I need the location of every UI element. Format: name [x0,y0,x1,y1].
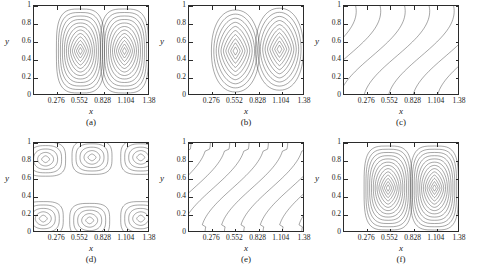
axis-tick-mark [456,42,459,43]
y-axis-label: y [156,173,168,183]
axis-tick-mark [146,24,149,25]
y-tick-label: 0.2 [1,210,31,218]
axis-tick-mark [189,197,193,198]
x-axis-ticks: 0.2760.5520.8281.1041.38 [33,96,149,106]
y-axis-label: y [311,173,323,183]
x-tick-label: 0.552 [381,233,398,242]
axis-tick-mark [344,179,348,180]
panel-label: (c) [343,117,459,128]
x-tick-label: 0.552 [381,96,398,105]
y-axis-ticks: 10.80.60.40.20 [0,137,31,237]
axis-tick-mark [367,92,368,95]
axis-tick-mark [414,6,415,10]
axis-tick-mark [301,78,304,79]
y-tick-label: 0.8 [156,19,186,27]
axis-tick-mark [437,6,438,10]
y-axis-label: y [1,36,13,46]
axis-tick-mark [414,92,415,95]
x-tick-label: 0.276 [48,233,65,242]
x-tick-label: 1.104 [427,233,444,242]
axis-tick-mark [301,179,304,180]
plot-box [33,5,149,95]
axis-tick-mark [189,215,193,216]
axis-tick-mark [344,143,348,144]
y-axis-label: y [311,36,323,46]
axis-tick-mark [344,60,348,61]
x-tick-label: 0.828 [249,233,266,242]
axis-tick-mark [456,197,459,198]
x-axis-ticks: 0.2760.5520.8281.1041.38 [188,96,304,106]
y-tick-label: 0.8 [311,19,341,27]
axis-tick-mark [146,197,149,198]
axis-tick-mark [437,143,438,147]
axis-tick-mark [212,229,213,232]
axis-tick-mark [344,6,348,7]
axis-tick-mark [301,42,304,43]
axis-tick-mark [57,229,58,232]
axis-tick-mark [104,6,105,10]
axis-tick-mark [456,24,459,25]
axis-tick-mark [301,24,304,25]
plot-area-c [343,5,459,95]
axis-tick-mark [301,60,304,61]
y-tick-label: 0.4 [311,192,341,200]
axis-tick-mark [301,6,304,7]
x-axis-ticks: 0.2760.5520.8281.1041.38 [343,233,459,243]
panel-label: (a) [33,117,149,128]
plot-area-e [188,142,304,232]
panel-a: 10.80.60.40.20 y 0.2760.5520.8281.1041.3… [0,0,159,137]
y-axis-ticks: 10.80.60.40.20 [0,0,31,100]
axis-tick-mark [189,143,193,144]
x-tick-label: 1.38 [452,233,465,242]
y-tick-label: 0.2 [311,73,341,81]
axis-tick-mark [80,229,81,232]
axis-tick-mark [189,78,193,79]
x-tick-label: 0.276 [203,233,220,242]
y-tick-label: 0 [156,91,186,99]
axis-tick-mark [212,92,213,95]
y-tick-label: 0.2 [156,73,186,81]
axis-tick-mark [456,161,459,162]
y-tick-label: 0 [156,228,186,236]
x-tick-label: 0.276 [203,96,220,105]
plot-box [343,5,459,95]
plot-box [33,142,149,232]
axis-tick-mark [367,6,368,10]
axis-tick-mark [456,6,459,7]
axis-tick-mark [282,92,283,95]
plot-area-d [33,142,149,232]
y-tick-label: 0.4 [156,55,186,63]
y-axis-ticks: 10.80.60.40.20 [155,0,186,100]
axis-tick-mark [301,161,304,162]
axis-tick-mark [456,179,459,180]
x-tick-label: 1.104 [117,233,134,242]
plot-area-f [343,142,459,232]
axis-tick-mark [146,179,149,180]
y-tick-label: 0.8 [156,156,186,164]
axis-tick-mark [80,92,81,95]
axis-tick-mark [104,229,105,232]
axis-tick-mark [344,24,348,25]
axis-tick-mark [146,42,149,43]
y-tick-label: 0 [1,228,31,236]
axis-tick-mark [390,6,391,10]
axis-tick-mark [235,6,236,10]
x-tick-label: 0.828 [249,96,266,105]
y-tick-label: 0.8 [311,156,341,164]
x-tick-label: 0.828 [404,233,421,242]
axis-tick-mark [146,215,149,216]
x-axis-label: x [343,243,459,253]
y-tick-label: 0.2 [1,73,31,81]
y-tick-label: 1 [156,1,186,9]
panel-e: 10.80.60.40.20 y 0.2760.5520.8281.1041.3… [155,137,314,274]
y-axis-ticks: 10.80.60.40.20 [155,137,186,237]
x-tick-label: 0.552 [71,96,88,105]
axis-tick-mark [104,92,105,95]
axis-tick-mark [34,42,38,43]
y-tick-label: 1 [311,1,341,9]
x-tick-label: 0.828 [94,96,111,105]
axis-tick-mark [414,143,415,147]
y-tick-label: 0.2 [156,210,186,218]
axis-tick-mark [259,6,260,10]
axis-tick-mark [235,143,236,147]
